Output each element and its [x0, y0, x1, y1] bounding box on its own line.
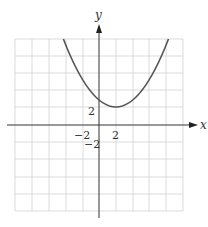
y-tick-label-pos: 2: [88, 105, 95, 118]
y-tick-label-neg: −2: [84, 138, 100, 151]
y-axis-arrow-icon: [96, 24, 102, 33]
graph: y x 2 −2 2 −2: [0, 0, 208, 227]
y-axis-label: y: [94, 8, 102, 22]
x-axis-label: x: [200, 118, 207, 132]
x-tick-label-pos: 2: [112, 129, 119, 142]
x-axis-arrow-icon: [189, 122, 198, 128]
